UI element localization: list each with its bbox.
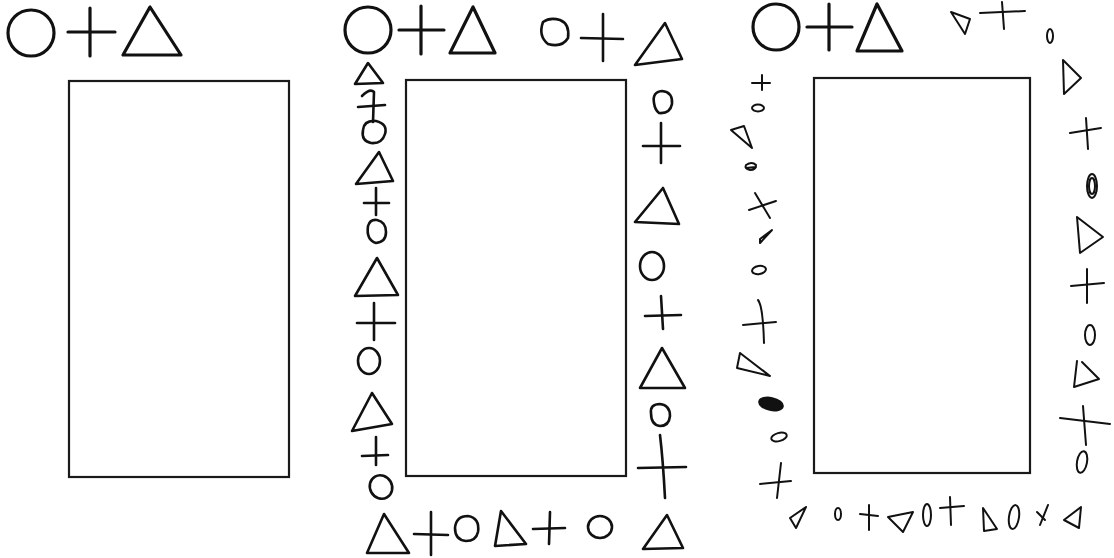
circle-shape-icon: [758, 396, 784, 413]
circle-shape-icon: [753, 4, 799, 50]
cross-shape-icon: [581, 14, 623, 61]
triangle-shape-icon: [951, 12, 970, 34]
cross-shape-icon: [940, 497, 964, 525]
panel-2: [345, 6, 686, 555]
triangle-shape-icon: [983, 508, 997, 531]
circle-shape-icon: [368, 220, 386, 243]
triangle-shape-icon: [760, 230, 772, 243]
circle-shape-icon: [1075, 450, 1089, 473]
triangle-shape-icon: [1064, 507, 1081, 528]
circle-shape-icon: [752, 105, 764, 112]
cross-shape-icon: [414, 512, 448, 555]
cross-shape-icon: [645, 296, 681, 329]
triangle-shape-icon: [355, 258, 398, 296]
figure-canvas: [0, 0, 1114, 558]
cross-shape-icon: [1060, 406, 1110, 445]
copy-row-bottom: [367, 511, 683, 555]
triangle-shape-icon: [737, 353, 770, 376]
circle-shape-icon: [640, 252, 664, 280]
cross-shape-icon: [643, 123, 680, 163]
cross-shape-icon: [533, 512, 565, 544]
target-rectangle: [814, 78, 1030, 473]
triangle-shape-icon: [888, 512, 913, 532]
cross-shape-icon: [68, 8, 115, 56]
cross-shape-icon: [638, 435, 686, 498]
cross-shape-icon: [749, 193, 776, 218]
cross-shape-icon: [860, 505, 878, 530]
copy-column-right: [635, 91, 686, 498]
circle-shape-icon: [1007, 504, 1020, 529]
copy-column-left: [352, 63, 398, 503]
circle-shape-icon: [651, 404, 670, 426]
target-rectangle: [406, 80, 626, 476]
cross-shape-icon: [807, 4, 852, 50]
cross-shape-icon: [358, 91, 385, 122]
copy-row-top: [951, 2, 1025, 34]
panel-1: [8, 7, 289, 477]
circle-shape-icon: [588, 516, 612, 538]
copy-row-top: [541, 14, 682, 65]
cross-shape-icon: [1070, 118, 1101, 149]
circle-shape-icon: [751, 265, 766, 275]
model-sequence: [753, 4, 902, 51]
circle-shape-icon: [770, 431, 788, 443]
cross-shape-icon: [980, 2, 1025, 29]
triangle-shape-icon: [1074, 361, 1099, 387]
circle-shape-icon: [345, 7, 391, 53]
triangle-shape-icon: [643, 515, 683, 549]
triangle-shape-icon: [640, 348, 685, 388]
triangle-shape-icon: [356, 152, 393, 184]
cross-shape-icon: [1071, 269, 1104, 303]
cross-shape-icon: [362, 437, 388, 465]
cross-shape-icon: [364, 188, 389, 215]
cross-shape-icon: [752, 75, 770, 90]
cross-shape-icon: [743, 300, 776, 343]
circle-shape-icon: [1047, 29, 1053, 43]
target-rectangle: [69, 81, 289, 477]
triangle-shape-icon: [355, 63, 383, 84]
triangle-shape-icon: [123, 7, 181, 55]
triangle-shape-icon: [857, 4, 902, 51]
circle-shape-icon: [541, 19, 568, 45]
cross-shape-icon: [1037, 505, 1048, 525]
copy-column-right: [1047, 29, 1110, 474]
triangle-shape-icon: [731, 126, 752, 148]
circle-shape-icon: [455, 516, 478, 541]
cross-shape-icon: [760, 463, 791, 498]
triangle-shape-icon: [352, 393, 392, 431]
circle-shape-icon: [1085, 325, 1095, 345]
triangle-shape-icon: [367, 514, 409, 553]
circle-shape-icon: [8, 10, 54, 56]
cross-shape-icon: [399, 6, 444, 54]
cross-shape-icon: [357, 303, 395, 340]
model-sequence: [8, 7, 181, 56]
triangle-shape-icon: [635, 188, 679, 224]
circle-shape-icon: [363, 121, 386, 143]
circle-shape-icon: [746, 163, 757, 170]
triangle-shape-icon: [495, 511, 526, 546]
triangle-shape-icon: [1077, 217, 1103, 253]
panel-3: [731, 2, 1110, 532]
circle-shape-icon: [365, 471, 396, 503]
circle-shape-icon: [835, 508, 841, 520]
triangle-shape-icon: [450, 7, 495, 53]
circle-shape-icon: [654, 91, 672, 113]
circle-shape-icon: [923, 504, 931, 526]
triangle-shape-icon: [1063, 60, 1081, 94]
circle-shape-icon: [358, 348, 380, 374]
copy-row-bottom: [790, 497, 1081, 532]
copy-column-left: [731, 75, 791, 498]
triangle-shape-icon: [790, 507, 806, 528]
triangle-shape-icon: [635, 23, 682, 65]
model-sequence: [345, 6, 495, 54]
